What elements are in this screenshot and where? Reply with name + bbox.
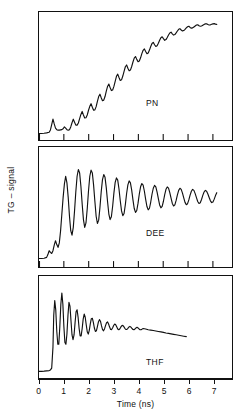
trace-pn	[39, 24, 217, 134]
x-tick-2	[89, 379, 90, 384]
panel-thf-plot	[39, 276, 232, 378]
trace-thf	[39, 293, 186, 371]
x-tick-label-0: 0	[36, 386, 41, 396]
x-tick-6	[189, 379, 190, 384]
panel-label-pn: PN	[146, 98, 159, 108]
panel-pn	[38, 11, 233, 141]
x-tick-0	[39, 379, 40, 384]
x-tick-label-1: 1	[61, 386, 66, 396]
x-tick-1	[64, 379, 65, 384]
x-axis-title: Time (ns)	[38, 399, 233, 409]
panel-dee-plot	[39, 147, 232, 267]
x-tick-label-3: 3	[111, 386, 116, 396]
panel-dee-ticks	[39, 261, 212, 267]
panel-thf	[38, 275, 233, 379]
trace-dee	[39, 170, 217, 259]
x-tick-3	[114, 379, 115, 384]
x-tick-label-6: 6	[187, 386, 192, 396]
x-tick-7	[214, 379, 215, 384]
panel-pn-ticks	[39, 134, 212, 140]
x-tick-label-2: 2	[86, 386, 91, 396]
tg-signal-figure: PN DEE THF TG – signal 01234567 Time (ns…	[0, 0, 242, 417]
x-tick-label-4: 4	[137, 386, 142, 396]
panel-label-dee: DEE	[146, 228, 165, 238]
panel-dee	[38, 146, 233, 268]
x-axis-line	[38, 379, 233, 380]
y-axis-label: TG – signal	[6, 155, 16, 225]
x-tick-label-5: 5	[162, 386, 167, 396]
x-axis: 01234567 Time (ns)	[38, 379, 233, 417]
panel-label-thf: THF	[146, 357, 164, 367]
panel-pn-plot	[39, 12, 232, 140]
x-tick-4	[139, 379, 140, 384]
x-tick-label-7: 7	[212, 386, 217, 396]
x-tick-5	[164, 379, 165, 384]
